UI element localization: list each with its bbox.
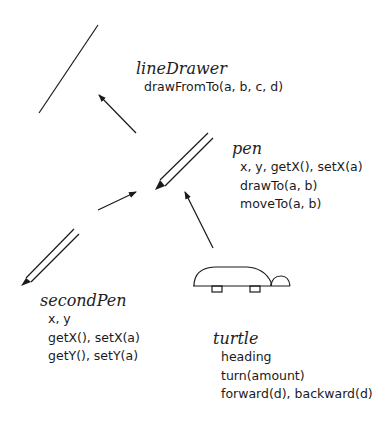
object-title: secondPen [40,292,140,310]
object-secondPen: secondPen x, y getX(), setX(a) getY(), s… [40,292,140,366]
object-member: heading [213,348,373,367]
object-member: x, y, getX(), setX(a) [232,158,363,177]
object-lineDrawer: lineDrawer drawFromTo(a, b, c, d) [136,60,283,97]
object-member: forward(d), backward(d) [213,385,373,404]
drawn-line-icon [39,25,98,113]
object-member: drawTo(a, b) [232,177,363,196]
object-member: turn(amount) [213,367,373,386]
connection-secondPen-to-pen [98,192,136,210]
object-member: x, y [40,310,140,329]
connection-pen-to-lineDrawer [99,95,136,133]
connection-turtle-to-pen [185,192,213,248]
turtle-icon [193,267,290,292]
second-pen-icon [21,229,79,286]
object-member: moveTo(a, b) [232,195,363,214]
object-member: getY(), setY(a) [40,347,140,366]
object-title: lineDrawer [136,60,283,78]
object-title: pen [232,140,363,158]
object-member: drawFromTo(a, b, c, d) [136,78,283,97]
object-turtle: turtle heading turn(amount) forward(d), … [213,330,373,404]
pen-icon [155,133,213,190]
object-diagram: lineDrawer drawFromTo(a, b, c, d) pen x,… [0,0,377,427]
object-title: turtle [213,330,373,348]
object-member: getX(), setX(a) [40,329,140,348]
object-pen: pen x, y, getX(), setX(a) drawTo(a, b) m… [232,140,363,214]
